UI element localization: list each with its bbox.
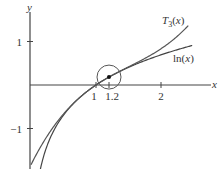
- x-tick-label: 2: [158, 90, 164, 102]
- t3-label: T3(x): [162, 14, 185, 29]
- x-tick-label: 1: [91, 90, 97, 102]
- ln-label: ln(x): [173, 52, 194, 65]
- series-labels: T3(x) ln(x): [162, 14, 194, 65]
- ln-curve: [39, 45, 192, 169]
- y-tick-label: 1: [17, 36, 23, 48]
- expansion-point: [107, 75, 111, 79]
- x-tick-label: 1.2: [105, 90, 119, 102]
- y-axis-label: y: [26, 1, 32, 13]
- x-axis-label: x: [211, 78, 217, 90]
- y-tick-label: −1: [10, 123, 22, 135]
- chart: y x 11.221−1 T3(x) ln(x): [0, 0, 219, 169]
